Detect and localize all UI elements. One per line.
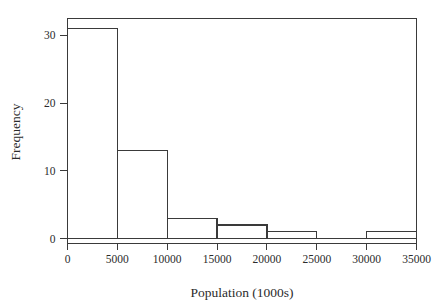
y-tick-label: 0 (50, 233, 56, 245)
y-tick-label: 30 (44, 29, 56, 41)
y-axis-title: Frequency (8, 103, 23, 160)
x-tick-label: 35000 (402, 253, 431, 265)
x-tick-label: 20000 (253, 253, 282, 265)
x-tick-label: 0 (65, 253, 71, 265)
histogram-figure: 05000100001500020000250003000035000 0102… (0, 0, 445, 308)
x-tick-label: 5000 (106, 253, 129, 265)
x-tick-label: 10000 (153, 253, 182, 265)
y-tick-label: 10 (44, 165, 56, 177)
x-axis-title: Population (1000s) (190, 285, 293, 300)
x-tick-label: 25000 (302, 253, 331, 265)
x-tick-label: 30000 (352, 253, 381, 265)
histogram-plot: 05000100001500020000250003000035000 0102… (0, 0, 445, 308)
y-tick-label: 20 (44, 97, 56, 109)
x-tick-label: 15000 (203, 253, 232, 265)
